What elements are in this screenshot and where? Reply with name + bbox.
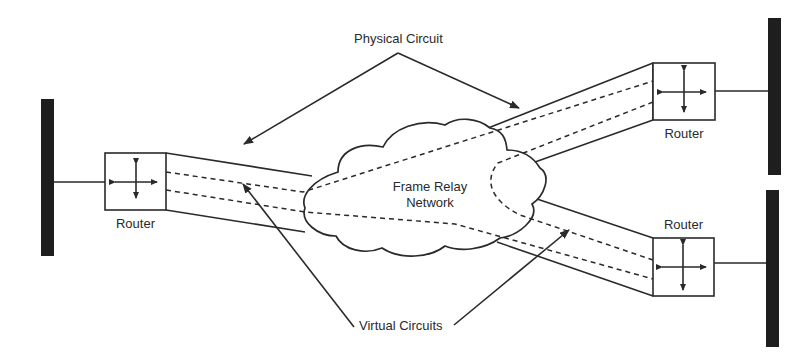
top-right-lan-bus: [768, 18, 781, 175]
physical-circuit-label: Physical Circuit: [354, 31, 443, 46]
router-top-right[interactable]: [653, 63, 715, 120]
left-lan-bus: [41, 99, 54, 256]
frame-relay-diagram: Physical Circuit Virtual Circuits Frame …: [0, 0, 807, 354]
bottom-right-lan-bus: [766, 190, 779, 347]
router-bottom-right-label: Router: [653, 217, 714, 232]
cloud-label-line2: Network: [375, 195, 485, 210]
router-bottom-right[interactable]: [653, 238, 714, 296]
physical-circuit-left: [166, 153, 312, 232]
router-top-right-label: Router: [653, 126, 715, 141]
virtual-circuits-label: Virtual Circuits: [359, 318, 443, 333]
cloud-label-line1: Frame Relay: [375, 179, 485, 194]
router-left[interactable]: [105, 153, 166, 210]
router-left-label: Router: [105, 216, 166, 231]
